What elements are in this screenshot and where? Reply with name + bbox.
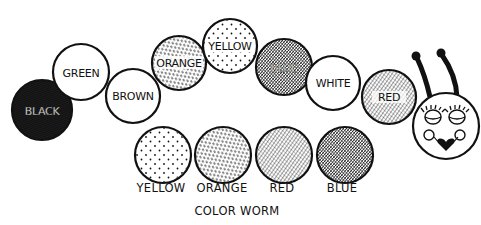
- segment-label: GREEN: [63, 67, 100, 80]
- segment-label: BLACK: [25, 105, 61, 118]
- cheek-icon: [424, 130, 434, 140]
- antenna-icon: [437, 49, 458, 98]
- segment-label: ORANGE: [156, 57, 202, 70]
- worm-head: [412, 49, 480, 160]
- legend-item-orange: ORANGE: [195, 127, 251, 195]
- legend-item-blue: BLUE: [317, 127, 373, 195]
- legend-item-yellow: YELLOW: [135, 127, 191, 195]
- legend-label: BLUE: [327, 181, 358, 195]
- segment-label: BROWN: [112, 90, 154, 103]
- worm-segment-white: WHITE: [306, 56, 360, 110]
- legend-label: RED: [269, 181, 294, 195]
- segment-label: WHITE: [316, 77, 351, 90]
- diagram-title: COLOR WORM: [194, 204, 279, 218]
- worm-segment-yellow: YELLOW: [203, 19, 257, 73]
- worm-segment-orange: ORANGE: [152, 36, 206, 90]
- worm-segment-red: RED: [362, 70, 416, 124]
- worm-body: BLACK GREEN BROWN ORANGE YELLOW: [12, 19, 416, 140]
- legend-label: YELLOW: [136, 181, 186, 195]
- worm-segment-blue: BLUE: [256, 39, 312, 95]
- legend-label: ORANGE: [196, 181, 247, 195]
- segment-label: YELLOW: [207, 40, 252, 53]
- worm-segment-brown: BROWN: [106, 69, 160, 123]
- segment-label: BLUE: [271, 62, 298, 75]
- segment-label: RED: [378, 91, 400, 104]
- color-worm-illustration: BLACK GREEN BROWN ORANGE YELLOW: [0, 0, 481, 225]
- color-legend: YELLOW ORANGE RED BLUE: [135, 127, 373, 195]
- legend-item-red: RED: [256, 127, 312, 195]
- worm-segment-green: GREEN: [53, 44, 109, 100]
